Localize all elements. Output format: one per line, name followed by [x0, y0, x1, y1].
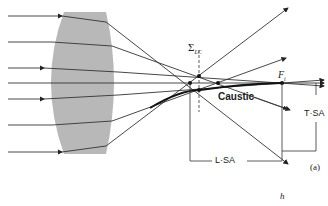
panel-label: (a) [310, 163, 320, 172]
caustic-label: Caustic [218, 92, 254, 102]
spherical-aberration-diagram [0, 0, 328, 206]
outgoing-rays [106, 8, 324, 164]
h-axis-label: h [280, 192, 285, 201]
lsa-label: L·SA [215, 156, 235, 165]
sigma-lc-label: ΣLC [188, 42, 202, 55]
focal-point-label: Fi [278, 70, 286, 82]
tsa-label: T·SA [304, 109, 325, 118]
caustic-curve [150, 83, 282, 108]
